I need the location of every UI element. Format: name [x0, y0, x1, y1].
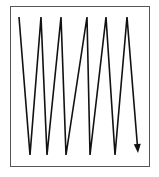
arrow-down-icon [134, 144, 141, 153]
zigzag-diagram [0, 0, 159, 177]
zigzag-path [19, 17, 137, 155]
